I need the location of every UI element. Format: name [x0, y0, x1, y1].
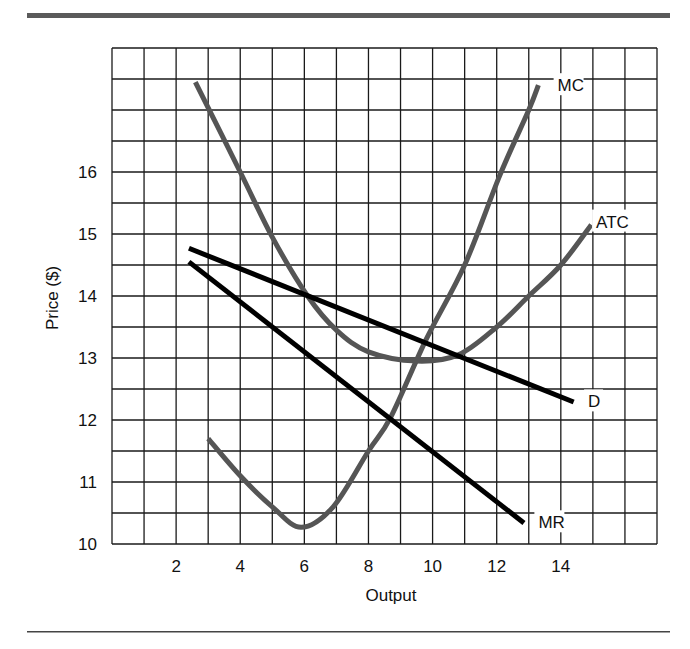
curve-label-mc: MC [558, 76, 584, 95]
top-rule [27, 13, 670, 18]
curve-mc [208, 85, 538, 527]
x-tick-label: 14 [551, 557, 570, 576]
x-tick-label: 2 [171, 557, 180, 576]
y-tick-label: 13 [78, 349, 97, 368]
y-tick-label: 11 [79, 473, 97, 492]
bottom-rule [27, 631, 670, 633]
curve-label-mr: MR [538, 513, 564, 532]
y-tick-label: 15 [78, 225, 97, 244]
y-tick-label: 16 [78, 163, 97, 182]
y-tick-label: 10 [78, 535, 97, 554]
x-tick-label: 8 [364, 557, 373, 576]
y-axis-label: Price ($) [43, 266, 62, 330]
curve-labels: MCATCDMR [534, 73, 633, 532]
curve-label-atc: ATC [596, 213, 629, 232]
curve-atc [195, 82, 591, 361]
curves [189, 82, 591, 527]
chart-figure: 246810121410111213141516 MCATCDMR Output… [0, 0, 690, 649]
x-tick-label: 10 [423, 557, 442, 576]
curve-d [189, 248, 574, 402]
cost-revenue-chart: 246810121410111213141516 MCATCDMR Output… [0, 0, 690, 649]
x-tick-label: 12 [487, 557, 506, 576]
x-tick-label: 4 [236, 557, 245, 576]
x-tick-label: 6 [300, 557, 309, 576]
curve-mr [189, 262, 524, 523]
curve-label-d: D [588, 392, 600, 411]
grid [112, 48, 657, 544]
y-tick-label: 14 [78, 287, 97, 306]
x-axis-label: Output [365, 586, 416, 605]
y-tick-label: 12 [78, 411, 97, 430]
